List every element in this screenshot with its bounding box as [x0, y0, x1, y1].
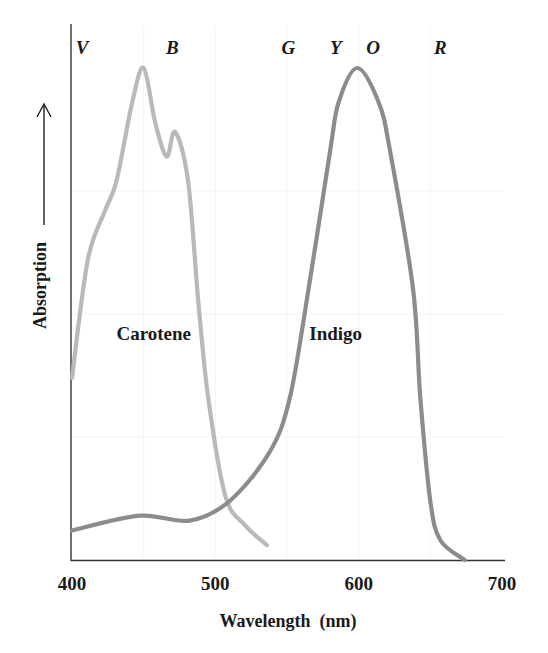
color-band-labels: VBGYOR [76, 37, 447, 58]
x-axis-title: Wavelength (nm) [220, 611, 357, 632]
y-axis-title-group: Absorption [30, 242, 50, 329]
series-label-carotene: Carotene [116, 323, 191, 344]
absorption-chart: VBGYOR 400500600700 CaroteneIndigo Wavel… [0, 0, 548, 653]
grid-lines [73, 26, 503, 558]
y-axis-title: Absorption [30, 242, 50, 329]
series-label-indigo: Indigo [309, 323, 362, 344]
up-arrow-icon [37, 104, 51, 225]
band-label-o: O [366, 37, 380, 58]
x-tick-700: 700 [488, 573, 517, 594]
x-tick-labels: 400500600700 [58, 573, 517, 594]
x-tick-600: 600 [344, 573, 373, 594]
band-label-y: Y [330, 37, 344, 58]
x-tick-500: 500 [201, 573, 230, 594]
band-label-b: B [165, 37, 179, 58]
series-labels: CaroteneIndigo [116, 323, 362, 344]
band-label-r: R [433, 37, 447, 58]
band-label-g: G [282, 37, 296, 58]
band-label-v: V [76, 37, 90, 58]
x-tick-400: 400 [58, 573, 87, 594]
series-carotene-line [72, 68, 267, 546]
